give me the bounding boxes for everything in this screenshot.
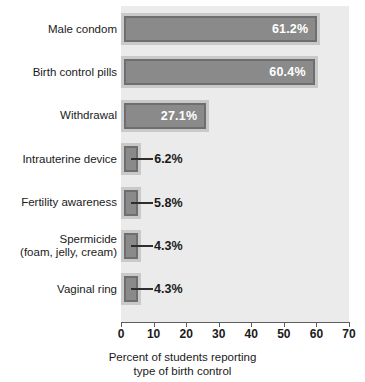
category-label-line: Male condom — [48, 23, 117, 36]
value-leader-line — [131, 245, 153, 247]
bar-value-label: 6.2% — [154, 152, 183, 166]
category-label-line: Spermicide — [20, 233, 117, 246]
bar-fill: 60.4% — [124, 59, 315, 85]
bar: 61.2% — [121, 13, 320, 45]
category-label: Intrauterine device — [22, 153, 117, 166]
category-label-line: Withdrawal — [60, 109, 117, 122]
bar-value-label: 27.1% — [161, 109, 197, 123]
value-leader-line — [131, 202, 153, 204]
category-label: Spermicide(foam, jelly, cream) — [20, 233, 117, 259]
x-axis-title: Percent of students reporting type of bi… — [0, 350, 365, 378]
bar-value-label: 60.4% — [269, 65, 305, 79]
category-label: Male condom — [48, 23, 117, 36]
x-axis-line — [121, 322, 349, 323]
bar: 27.1% — [121, 100, 209, 132]
bar-fill: 61.2% — [124, 16, 317, 42]
category-label: Fertility awareness — [21, 196, 117, 209]
x-axis-title-line-2: type of birth control — [0, 364, 365, 378]
category-label-line: Vaginal ring — [57, 283, 117, 296]
x-axis-title-line-1: Percent of students reporting — [0, 350, 365, 364]
category-label-line: Intrauterine device — [22, 153, 117, 166]
bar-value-label: 61.2% — [272, 22, 308, 36]
category-label: Birth control pills — [33, 66, 117, 79]
bar: 60.4% — [121, 56, 318, 88]
bar-value-label: 4.3% — [154, 282, 183, 296]
value-leader-line — [131, 288, 153, 290]
category-label: Withdrawal — [60, 109, 117, 122]
category-label: Vaginal ring — [57, 283, 117, 296]
category-label-line: (foam, jelly, cream) — [20, 246, 117, 259]
value-leader-line — [131, 158, 153, 160]
x-axis-tick-label: 70 — [329, 327, 365, 342]
bar-value-label: 4.3% — [154, 239, 183, 253]
category-label-line: Birth control pills — [33, 66, 117, 79]
bar-value-label: 5.8% — [154, 196, 183, 210]
category-label-line: Fertility awareness — [21, 196, 117, 209]
bar-fill: 27.1% — [124, 103, 206, 129]
bar-chart: 01020304050607061.2%Male condom60.4%Birt… — [0, 0, 365, 382]
